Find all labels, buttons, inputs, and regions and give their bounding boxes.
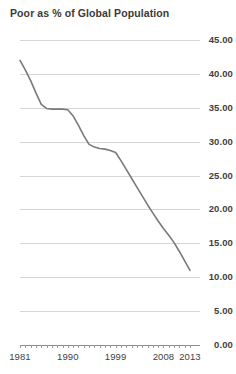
x-tick-mark [47, 345, 48, 348]
y-axis-label: 15.00 [191, 237, 233, 248]
y-axis-label: 20.00 [191, 203, 233, 214]
x-tick-mark [78, 345, 79, 348]
line-series-path [20, 60, 190, 270]
x-axis-label: 1990 [51, 351, 85, 362]
x-tick-mark [57, 345, 58, 348]
x-tick-mark [132, 345, 133, 348]
y-axis-label: 10.00 [191, 271, 233, 282]
x-tick-mark [116, 345, 117, 348]
x-tick-mark [185, 345, 186, 348]
x-tick-mark [36, 345, 37, 348]
x-axis-label: 1999 [99, 351, 133, 362]
x-tick-mark [41, 345, 42, 348]
x-tick-mark [20, 345, 21, 348]
x-tick-mark [105, 345, 106, 348]
x-tick-mark [52, 345, 53, 348]
x-tick-mark [110, 345, 111, 348]
x-tick-mark [158, 345, 159, 348]
x-tick-mark [142, 345, 143, 348]
y-axis-label: 45.00 [191, 34, 233, 45]
x-tick-mark [121, 345, 122, 348]
x-axis-label: 1981 [3, 351, 37, 362]
x-tick-mark [68, 345, 69, 348]
x-tick-mark [163, 345, 164, 348]
x-tick-mark [179, 345, 180, 348]
line-series-svg [20, 40, 190, 345]
chart-title: Poor as % of Global Population [10, 6, 170, 21]
x-axis-label: 2013 [173, 351, 207, 362]
x-tick-mark [100, 345, 101, 348]
x-tick-mark [174, 345, 175, 348]
y-axis-label: 30.00 [191, 136, 233, 147]
x-tick-mark [63, 345, 64, 348]
x-tick-mark [148, 345, 149, 348]
y-axis-label: 35.00 [191, 102, 233, 113]
x-tick-mark [153, 345, 154, 348]
x-tick-mark [126, 345, 127, 348]
chart-container: Poor as % of Global Population 45.0040.0… [0, 0, 236, 374]
x-tick-mark [94, 345, 95, 348]
y-axis-label: 0.00 [191, 339, 233, 350]
x-tick-mark [89, 345, 90, 348]
y-axis-label: 40.00 [191, 68, 233, 79]
x-tick-mark [137, 345, 138, 348]
x-tick-mark [25, 345, 26, 348]
plot-area [20, 40, 190, 345]
x-tick-mark [73, 345, 74, 348]
x-tick-mark [31, 345, 32, 348]
x-tick-mark [169, 345, 170, 348]
x-tick-mark [84, 345, 85, 348]
y-axis-label: 25.00 [191, 170, 233, 181]
y-axis-label: 5.00 [191, 305, 233, 316]
